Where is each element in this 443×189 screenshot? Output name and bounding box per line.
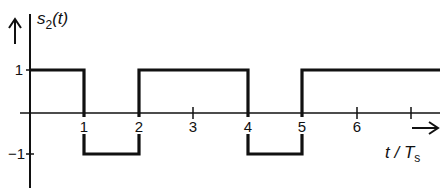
x-tick-label-4: 4 xyxy=(244,118,252,135)
y-arrow-icon xyxy=(9,19,21,44)
y-axis-label: s2(t) xyxy=(37,9,68,32)
x-tick-label-1: 1 xyxy=(80,118,88,135)
y-tick-label-minus1: −1 xyxy=(8,145,25,162)
x-tick-label-6: 6 xyxy=(353,118,361,135)
step-signal-chart: 1 2 3 4 5 6 1 −1 s2(t) t / Ts xyxy=(0,0,443,189)
signal-trace xyxy=(30,70,440,154)
x-axis-label: t / Ts xyxy=(385,143,420,165)
x-arrow-icon xyxy=(412,122,438,134)
x-tick-label-5: 5 xyxy=(298,118,306,135)
x-tick-label-3: 3 xyxy=(189,118,197,135)
y-tick-label-1: 1 xyxy=(15,61,23,78)
x-tick-label-2: 2 xyxy=(135,118,143,135)
